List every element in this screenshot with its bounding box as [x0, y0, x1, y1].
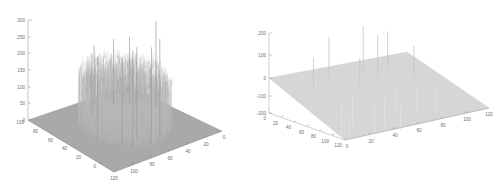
left-z-tick-150: 150: [17, 68, 25, 73]
left-y-tick-40: 40: [62, 146, 68, 151]
left-z-tick-250: 250: [17, 35, 25, 40]
right-x-tick-100: 100: [463, 117, 471, 122]
left-x-tick-120: 120: [110, 176, 118, 181]
right-z-tick-neg100: -100: [257, 94, 267, 99]
left-y-tick-20: 20: [76, 155, 82, 160]
chart-panel-left: 300 250 200 150 100 50 0 100 80 60 40 20…: [0, 0, 246, 190]
left-z-tick-50: 50: [20, 101, 26, 106]
right-x-tick-20: 20: [368, 139, 374, 144]
left-x-tick-60: 60: [167, 156, 173, 161]
right-x-tick-60: 60: [416, 128, 422, 133]
right-base-plane: [269, 52, 489, 140]
right-x-tick-80: 80: [440, 123, 446, 128]
left-plot-svg: 300 250 200 150 100 50 0 100 80 60 40 20…: [0, 0, 246, 190]
right-x-tick-40: 40: [392, 133, 398, 138]
left-y-tick-80: 80: [33, 129, 39, 134]
right-z-tick-200: 200: [258, 31, 266, 36]
right-y-tick-60: 60: [299, 130, 305, 135]
right-z-tick-neg200: -200: [257, 111, 267, 116]
right-y-tick-120: 120: [334, 143, 342, 148]
right-z-axis: [269, 33, 272, 113]
left-z-tick-100: 100: [17, 85, 25, 90]
right-plot-svg: 200 100 0 -100 -200 0 20 40 60 80 100 12…: [247, 0, 493, 190]
left-x-tick-0: 0: [223, 135, 226, 140]
right-y-tick-100: 100: [321, 139, 329, 144]
left-z-tick-300: 300: [17, 18, 25, 23]
left-x-tick-20: 20: [203, 142, 209, 147]
right-y-tick-40: 40: [286, 125, 292, 130]
right-z-tick-100: 100: [258, 53, 266, 58]
left-x-tick-100: 100: [130, 169, 138, 174]
left-z-axis: [28, 20, 32, 120]
left-y-tick-0: 0: [93, 164, 96, 169]
right-y-tick-80: 80: [311, 134, 317, 139]
left-x-tick-80: 80: [149, 162, 155, 167]
right-y-tick-0: 0: [263, 116, 266, 121]
left-x-tick-40: 40: [185, 149, 191, 154]
figure-container: 300 250 200 150 100 50 0 100 80 60 40 20…: [0, 0, 493, 190]
left-y-tick-60: 60: [48, 138, 54, 143]
chart-panel-right: 200 100 0 -100 -200 0 20 40 60 80 100 12…: [247, 0, 493, 190]
right-x-tick-0: 0: [346, 144, 349, 149]
left-z-tick-200: 200: [17, 51, 25, 56]
right-x-tick-120: 120: [485, 112, 493, 117]
right-z-tick-0: 0: [263, 76, 266, 81]
right-y-tick-20: 20: [273, 121, 279, 126]
left-y-tick-100: 100: [16, 120, 24, 125]
